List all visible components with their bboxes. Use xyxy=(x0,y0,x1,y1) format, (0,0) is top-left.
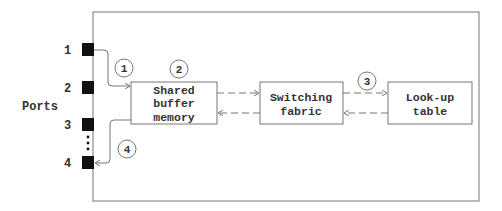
shared-buffer-memory-box: Shared buffer memory xyxy=(131,82,217,124)
svg-text:table: table xyxy=(413,105,448,118)
step-3-marker: 3 xyxy=(358,72,376,90)
svg-text:buffer: buffer xyxy=(153,97,195,110)
svg-text:2: 2 xyxy=(64,82,71,96)
svg-text:1: 1 xyxy=(121,63,128,75)
port-ellipsis-icon xyxy=(87,136,90,151)
svg-text:fabric: fabric xyxy=(280,105,322,118)
svg-text:4: 4 xyxy=(64,157,71,171)
port-3: 3 xyxy=(64,118,94,133)
port-4: 4 xyxy=(64,156,94,171)
svg-text:1: 1 xyxy=(64,44,71,58)
svg-text:Shared: Shared xyxy=(153,84,195,97)
svg-text:Look-up: Look-up xyxy=(406,91,454,104)
step-1-marker: 1 xyxy=(115,59,133,77)
port-2: 2 xyxy=(64,81,94,96)
svg-text:2: 2 xyxy=(176,64,183,76)
port-1: 1 xyxy=(64,43,94,58)
svg-text:3: 3 xyxy=(364,76,371,88)
step-2-marker: 2 xyxy=(170,60,188,78)
svg-text:Switching: Switching xyxy=(270,91,332,104)
switch-architecture-diagram: Ports 1 2 3 4 Shared buffer memory Switc… xyxy=(0,0,502,211)
switching-fabric-box: Switching fabric xyxy=(260,82,343,124)
lookup-table-box: Look-up table xyxy=(388,82,472,124)
step-4-marker: 4 xyxy=(118,140,136,158)
svg-text:memory: memory xyxy=(153,111,195,124)
svg-text:3: 3 xyxy=(64,119,71,133)
ports-label: Ports xyxy=(22,100,58,114)
svg-text:4: 4 xyxy=(124,144,131,156)
